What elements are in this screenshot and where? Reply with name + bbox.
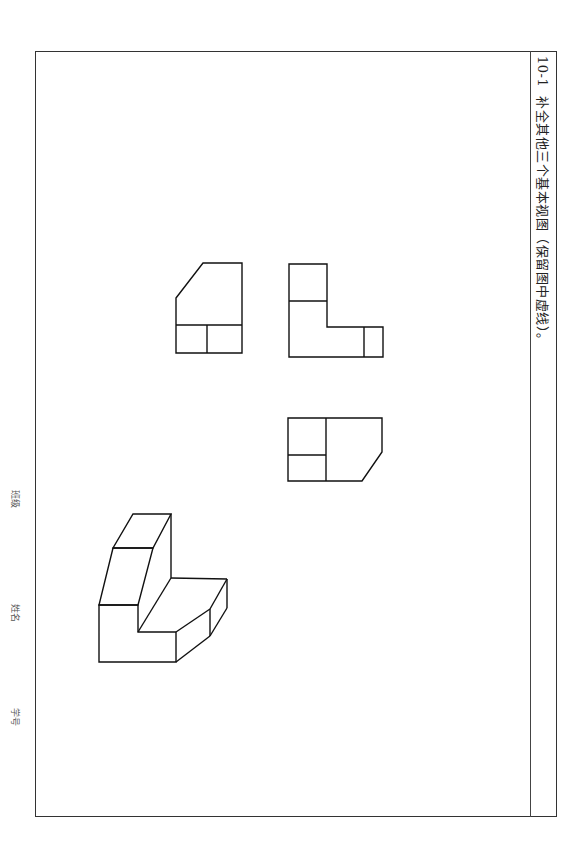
view-chamfered-corner: [288, 418, 382, 481]
isometric-drawing: [99, 514, 227, 662]
drawing-canvas: [0, 0, 584, 854]
view-l-shape: [289, 264, 383, 357]
view-chamfered-block: [176, 263, 242, 353]
